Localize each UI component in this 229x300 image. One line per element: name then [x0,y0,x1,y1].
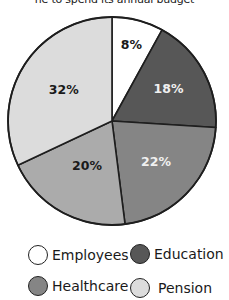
legend-item-education: Education [130,242,224,266]
legend-label: Healthcare [52,278,128,294]
legend-label: Employees [52,247,129,263]
legend-swatch-education [130,244,150,264]
legend-swatch-employees [28,245,48,265]
legend-label: Pension [158,280,212,296]
legend-item-employees: Employees [28,243,129,267]
legend-swatch-pension [130,278,150,298]
legend-label: Education [154,246,224,262]
legend-item-pension: Pension [130,276,212,300]
legend-item-healthcare: Healthcare [28,274,128,298]
legend-swatch-healthcare [28,276,48,296]
